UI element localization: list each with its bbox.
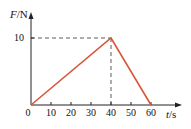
x-axis-unit: /s bbox=[169, 108, 176, 120]
x-tick-label-0: 0 bbox=[26, 108, 31, 118]
x-tick-label-10: 10 bbox=[46, 108, 56, 118]
y-axis-var: F bbox=[10, 8, 17, 20]
x-axis-label: t/s bbox=[166, 109, 176, 120]
x-tick-label-50: 50 bbox=[126, 108, 136, 118]
x-tick-label-60: 60 bbox=[146, 108, 156, 118]
x-tick-label-20: 20 bbox=[66, 108, 76, 118]
force-series-line bbox=[31, 38, 151, 105]
x-axis-arrow-icon bbox=[175, 103, 182, 108]
y-axis-arrow-icon bbox=[29, 12, 34, 19]
y-axis-label: F/N bbox=[10, 9, 28, 20]
x-tick-label-40: 40 bbox=[106, 108, 116, 118]
x-tick-label-30: 30 bbox=[86, 108, 96, 118]
y-tick-label-10: 10 bbox=[14, 33, 24, 43]
y-axis-unit: /N bbox=[17, 8, 28, 20]
